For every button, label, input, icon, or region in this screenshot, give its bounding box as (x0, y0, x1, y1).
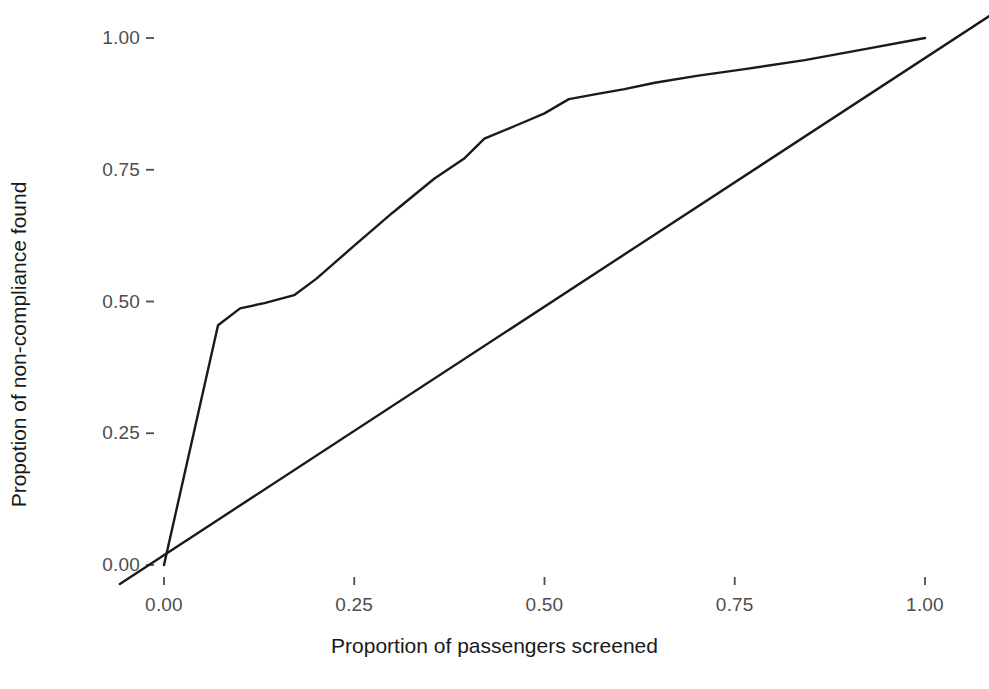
y-tick-label-0.00: 0.00 (32, 554, 140, 576)
y-tick-label-0.75: 0.75 (32, 159, 140, 181)
x-tick-label-0.75: 0.75 (716, 594, 754, 616)
y-tick-label-0.25: 0.25 (32, 422, 140, 444)
x-axis-title: Proportion of passengers screened (0, 634, 989, 658)
y-tick-label-0.50: 0.50 (32, 291, 140, 313)
y-axis-title: Propotion of non-compliance found (0, 0, 38, 689)
x-tick-label-0.00: 0.00 (145, 594, 183, 616)
x-tick-label-0.25: 0.25 (335, 594, 373, 616)
y-tick-label-1.00: 1.00 (32, 27, 140, 49)
plot-background (0, 0, 989, 689)
chart-figure: 0.000.250.500.751.00 0.000.250.500.751.0… (0, 0, 989, 689)
plot-area (0, 0, 989, 689)
x-tick-label-0.50: 0.50 (526, 594, 564, 616)
x-tick-label-1.00: 1.00 (906, 594, 944, 616)
